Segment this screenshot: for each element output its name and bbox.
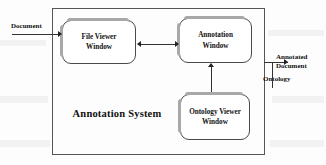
box-shadow-top — [184, 16, 245, 19]
diagram-canvas: Annotation System Document File Viewer W… — [0, 0, 326, 165]
ontology-viewer-window-label-line2: Window — [202, 118, 228, 126]
file-viewer-window-label-line2: Window — [86, 43, 112, 51]
file-annotation-arrowhead-left — [137, 41, 141, 47]
document-input-arrowhead — [58, 31, 62, 37]
file-annotation-connector — [139, 44, 178, 45]
annotation-window-label-line1: Annotation — [198, 31, 233, 39]
box-shadow-left — [177, 23, 180, 56]
ontology-annotation-connector — [211, 67, 212, 94]
file-annotation-arrowhead-right — [175, 41, 179, 47]
scan-artifact — [0, 140, 50, 147]
annotated-document-output-arrowhead — [284, 59, 288, 65]
file-viewer-window-label-line1: File Viewer — [82, 33, 117, 41]
annotation-system-label: Annotation System — [58, 108, 176, 119]
ontology-input-label: Ontology — [263, 75, 291, 84]
scan-artifact — [0, 96, 48, 103]
box-shadow-top — [67, 18, 129, 21]
document-input-label: Document — [11, 22, 42, 31]
box-shadow-left — [178, 99, 181, 133]
annotation-window[interactable]: Annotation Window — [179, 18, 252, 63]
ontology-viewer-window[interactable]: Ontology Viewer Window — [180, 94, 250, 140]
annotated-document-output-label-line1: Annotated — [276, 53, 308, 61]
box-shadow-top — [185, 92, 243, 95]
box-shadow-left — [60, 25, 63, 57]
file-viewer-window-label: File Viewer Window — [79, 32, 120, 53]
annotation-window-label-line2: Window — [203, 42, 229, 50]
document-input-line — [12, 34, 63, 35]
file-viewer-window[interactable]: File Viewer Window — [62, 20, 136, 64]
scan-artifact — [0, 40, 46, 46]
ontology-annotation-arrowhead — [208, 63, 214, 67]
ontology-viewer-window-label: Ontology Viewer Window — [186, 107, 244, 128]
scan-artifact — [268, 30, 324, 36]
ontology-viewer-window-label-line1: Ontology Viewer — [189, 108, 241, 116]
annotation-window-label: Annotation Window — [195, 30, 236, 51]
scan-artifact — [270, 140, 324, 147]
ontology-input-line — [272, 62, 273, 88]
scan-artifact — [272, 96, 324, 103]
